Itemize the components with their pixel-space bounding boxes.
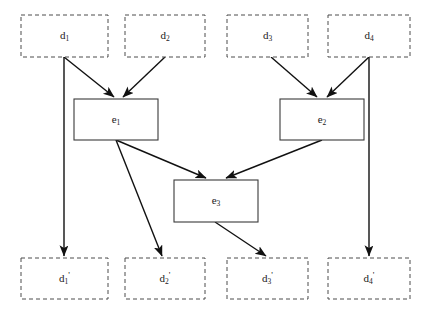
edge-d1-e1: [64, 57, 114, 97]
node-d1p[interactable]: d1': [21, 258, 108, 299]
edge-d3-e2: [271, 57, 317, 97]
node-e2[interactable]: e2: [280, 99, 364, 140]
node-d3[interactable]: d3: [227, 15, 308, 57]
edge-e3-d3p: [215, 222, 266, 256]
diagram-canvas: d1d2d3d4d1'd2'd3'd4'e1e2e3: [0, 0, 430, 317]
node-d4[interactable]: d4: [328, 15, 410, 57]
diagram-svg: d1d2d3d4d1'd2'd3'd4'e1e2e3: [0, 0, 430, 317]
node-d3p[interactable]: d3': [227, 258, 308, 299]
node-d2p[interactable]: d2': [125, 258, 205, 299]
node-e1[interactable]: e1: [74, 99, 158, 140]
node-d4p[interactable]: d4': [328, 258, 410, 299]
edge-d4-e2: [327, 57, 369, 97]
edge-e1-d2p: [116, 140, 162, 256]
node-e3[interactable]: e3: [174, 180, 258, 222]
node-d1[interactable]: d1: [21, 15, 108, 57]
edges-layer: [64, 57, 369, 256]
edge-e2-e3: [226, 140, 322, 178]
edge-d2-e1: [123, 57, 165, 97]
node-d2[interactable]: d2: [125, 15, 205, 57]
nodes-layer: d1d2d3d4d1'd2'd3'd4'e1e2e3: [21, 15, 410, 299]
